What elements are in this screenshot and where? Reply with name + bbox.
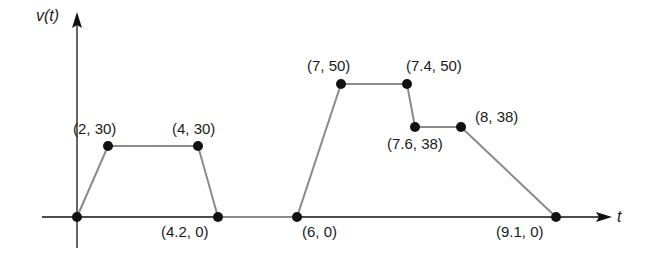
data-point (410, 122, 420, 132)
point-label: (4.2, 0) (161, 224, 209, 239)
data-point (336, 79, 346, 89)
point-label: (6, 0) (302, 224, 337, 239)
point-label: (2, 30) (73, 121, 116, 136)
data-point (456, 122, 466, 132)
data-point (193, 141, 203, 151)
y-axis-label: v(t) (36, 8, 59, 24)
data-point (72, 212, 82, 222)
x-axis-label: t (617, 209, 621, 225)
axes (42, 12, 612, 248)
point-label: (9.1, 0) (496, 224, 544, 239)
data-point (292, 212, 302, 222)
data-point (213, 212, 223, 222)
velocity-polyline (77, 84, 556, 217)
point-label: (8, 38) (475, 109, 518, 124)
point-label: (7, 50) (307, 58, 350, 73)
data-point (551, 212, 561, 222)
data-point (402, 79, 412, 89)
point-label: (4, 30) (172, 121, 215, 136)
data-points (72, 79, 561, 222)
point-label: (7.4, 50) (406, 58, 462, 73)
point-label: (7.6, 38) (387, 136, 443, 151)
data-point (103, 141, 113, 151)
